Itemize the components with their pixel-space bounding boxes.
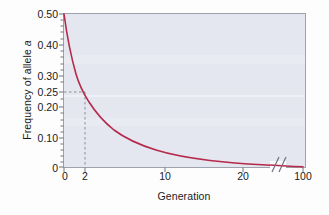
scan-band-upper [64, 55, 305, 64]
x-axis-ticks [64, 168, 303, 173]
plot-panel-background [64, 14, 306, 168]
plot-area-svg [0, 0, 329, 215]
chart-figure: Frequency of allele a 0.50 0.40 0.30 0.2… [0, 0, 329, 215]
scan-band-lower [64, 118, 305, 126]
y-axis-ticks [59, 14, 64, 167]
axis-break-curve-segment [270, 165, 286, 166]
scan-band-mid [64, 95, 305, 97]
